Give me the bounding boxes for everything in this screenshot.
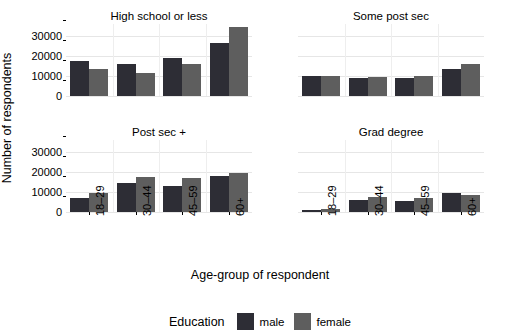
x-tick-label: 45–59	[419, 185, 431, 216]
y-tick-label: 0	[56, 207, 62, 218]
bar-group	[66, 61, 113, 96]
bar-female[interactable]	[368, 77, 387, 96]
legend-key-male[interactable]: male	[237, 313, 285, 330]
legend-label-female: female	[317, 316, 352, 328]
legend-swatch-male-icon	[237, 313, 254, 330]
legend-title: Education	[169, 315, 225, 329]
faceted-bar-chart: Number of respondents High school or les…	[0, 0, 520, 336]
bar-male[interactable]	[163, 58, 182, 96]
bar-male[interactable]	[349, 78, 368, 96]
bar-female[interactable]	[136, 73, 155, 96]
bar-male[interactable]	[70, 61, 89, 96]
y-axis-ticks: 0100002000030000	[6, 140, 62, 212]
bar-female[interactable]	[461, 64, 480, 96]
x-tick-label: 18–29	[94, 185, 106, 216]
x-axis-ticks: 18–2930–4445–5960+	[298, 212, 484, 252]
bar-group	[391, 76, 438, 96]
x-tick-label: 30–44	[373, 185, 385, 216]
legend-label-male: male	[260, 316, 285, 328]
y-tick-label: 10000	[31, 187, 62, 198]
x-tick-label: 18–29	[326, 185, 338, 216]
plot-area	[66, 24, 252, 96]
y-tick-label: 0	[56, 91, 62, 102]
bar-male[interactable]	[210, 176, 229, 212]
x-tick-label: 60+	[234, 197, 246, 216]
chart-legend: Education male female	[0, 313, 520, 330]
bar-female[interactable]	[321, 76, 340, 96]
y-tick-label: 10000	[31, 71, 62, 82]
y-tick-label: 30000	[31, 31, 62, 42]
bar-male[interactable]	[395, 78, 414, 96]
legend-swatch-female-icon	[294, 313, 311, 330]
x-tick-label: 30–44	[141, 185, 153, 216]
y-tick-label: 20000	[31, 51, 62, 62]
bar-male[interactable]	[442, 193, 461, 212]
bar-series	[298, 24, 484, 96]
bar-male[interactable]	[210, 43, 229, 96]
bar-male[interactable]	[117, 64, 136, 96]
bar-female[interactable]	[89, 69, 108, 96]
y-axis-ticks: 0100002000030000	[6, 24, 62, 96]
facet-strip-label: Grad degree	[298, 124, 484, 140]
x-axis-ticks: 18–2930–4445–5960+	[66, 212, 252, 252]
bar-male[interactable]	[117, 183, 136, 212]
facet-strip-label: Post sec +	[66, 124, 252, 140]
bar-group	[113, 64, 160, 96]
facet-panel: Some post sec	[298, 8, 484, 96]
bar-group	[298, 76, 345, 96]
x-tick-label: 60+	[466, 197, 478, 216]
bar-female[interactable]	[229, 27, 248, 96]
x-tick-label: 45–59	[187, 185, 199, 216]
plot-area	[298, 24, 484, 96]
facet-strip-label: High school or less	[66, 8, 252, 24]
bar-group	[438, 64, 485, 96]
bar-group	[159, 58, 206, 96]
legend-key-female[interactable]: female	[294, 313, 352, 330]
bar-female[interactable]	[182, 64, 201, 96]
bar-female[interactable]	[414, 76, 433, 96]
x-axis-title: Age-group of respondent	[0, 268, 520, 282]
bar-group	[206, 27, 253, 96]
bar-male[interactable]	[349, 200, 368, 212]
y-tick-label: 30000	[31, 147, 62, 158]
bar-male[interactable]	[442, 69, 461, 96]
bar-male[interactable]	[163, 186, 182, 212]
facet-strip-label: Some post sec	[298, 8, 484, 24]
bar-male[interactable]	[302, 76, 321, 96]
bar-male[interactable]	[70, 198, 89, 212]
y-tick-label: 20000	[31, 167, 62, 178]
bar-group	[345, 77, 392, 96]
panel-grid: High school or less0100002000030000Some …	[66, 8, 512, 240]
facet-panel: High school or less	[66, 8, 252, 96]
bar-series	[66, 24, 252, 96]
bar-male[interactable]	[395, 201, 414, 212]
